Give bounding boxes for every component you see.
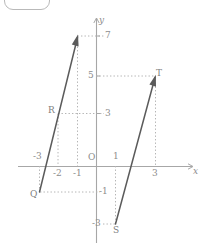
axis-lines	[18, 18, 193, 243]
vector-arrows	[40, 35, 157, 225]
dotted-guides	[40, 36, 156, 224]
x-axis-label: x	[193, 167, 198, 176]
point-label-q: Q	[30, 190, 37, 199]
origin-label: O	[88, 153, 95, 162]
left-vector-arrowhead	[72, 35, 79, 47]
y-axis-label: y	[99, 16, 104, 25]
point-label-r: R	[48, 106, 55, 115]
right-vector-arrowhead	[149, 75, 156, 87]
figure-canvas: x y O -3 -2 -1 1 3 7 5 3 -1 -3 Q R S T	[0, 0, 206, 249]
right-vector-shaft	[116, 78, 156, 225]
point-label-s: S	[113, 226, 119, 235]
y-tick-label-neg1: -1	[99, 187, 108, 196]
x-tick-label-1: 1	[113, 152, 119, 161]
y-tick-label-neg3: -3	[92, 219, 101, 228]
coordinate-plane-svg	[0, 0, 206, 249]
x-tick-label-3: 3	[152, 169, 158, 178]
x-tick-label-neg2: -2	[53, 169, 62, 178]
y-tick-label-3: 3	[105, 109, 111, 118]
point-label-t: T	[156, 69, 162, 78]
x-tick-label-neg3: -3	[33, 152, 42, 161]
x-tick-label-neg1: -1	[73, 169, 82, 178]
y-tick-label-5: 5	[88, 71, 94, 80]
y-tick-label-7: 7	[105, 31, 111, 40]
